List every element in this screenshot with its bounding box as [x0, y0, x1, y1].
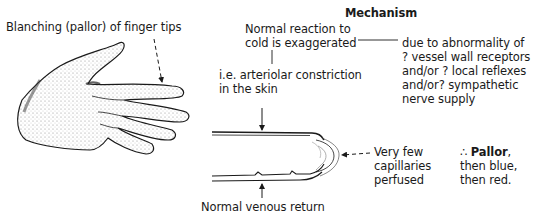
label-very-few-1: Very few — [374, 145, 423, 159]
label-pallor: ∴ Pallor, — [460, 145, 511, 159]
label-due-to-1: due to abnormality of — [402, 36, 524, 50]
label-blanching: Blanching (pallor) of finger tips — [6, 20, 181, 34]
pallor-comma: , — [508, 145, 512, 159]
capillaries-dashed-arrow — [342, 153, 370, 155]
label-due-to-5: nerve supply — [402, 92, 475, 106]
label-then-blue: then blue, — [460, 159, 517, 173]
label-normal-reaction-2: cold is exaggerated — [245, 36, 357, 50]
vessel-illustration — [212, 132, 339, 181]
label-normal-reaction-1: Normal reaction to — [245, 22, 351, 36]
label-venous-return: Normal venous return — [201, 200, 325, 214]
finger-tip-dashed-arrow — [154, 39, 162, 82]
label-due-to-2: ? vessel wall receptors — [402, 50, 530, 64]
label-very-few-2: capillaries — [374, 159, 431, 173]
therefore-symbol: ∴ — [460, 145, 467, 159]
label-due-to-3: and/or ? local reflexes — [402, 64, 526, 78]
label-ie-2: in the skin — [219, 82, 278, 96]
label-then-red: then red. — [460, 173, 511, 187]
label-ie-1: i.e. arteriolar constriction — [219, 68, 362, 82]
hand-illustration — [18, 42, 189, 154]
label-due-to-4: and/or? sympathetic — [402, 78, 518, 92]
label-very-few-3: perfused — [374, 173, 424, 187]
diagram-title: Mechanism — [345, 6, 417, 20]
pallor-word: Pallor — [471, 145, 508, 159]
